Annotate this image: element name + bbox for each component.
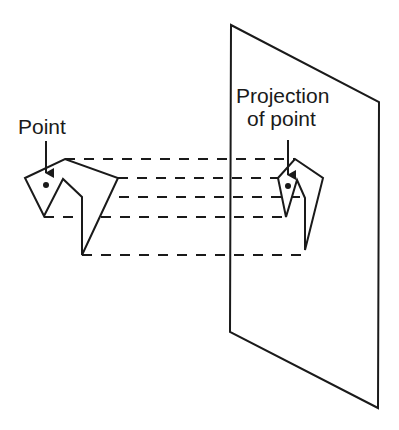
projected-shape [278, 159, 323, 250]
projection-label-line1: Projection [236, 84, 329, 107]
projection-label-line2: of point [247, 107, 316, 130]
point-dot [43, 182, 49, 188]
point-label: Point [18, 115, 66, 138]
projected-point-dot [285, 183, 291, 189]
object-shape [25, 159, 118, 255]
projection-diagram: Point Projection of point [0, 0, 399, 430]
